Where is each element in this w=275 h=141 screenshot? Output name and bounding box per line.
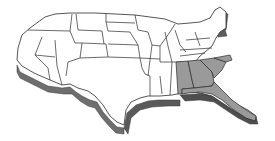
highlighted-states: [176, 55, 256, 121]
us-map: [0, 0, 275, 141]
us-map-svg: [0, 0, 275, 141]
